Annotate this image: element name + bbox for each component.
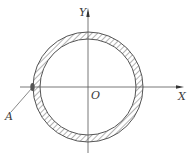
hatched-annulus [0, 0, 194, 160]
x-axis-label: X [177, 90, 187, 103]
point-a-label: A [4, 110, 13, 123]
cross-section-diagram: Y X O A [0, 0, 194, 160]
origin-label: O [91, 89, 100, 102]
